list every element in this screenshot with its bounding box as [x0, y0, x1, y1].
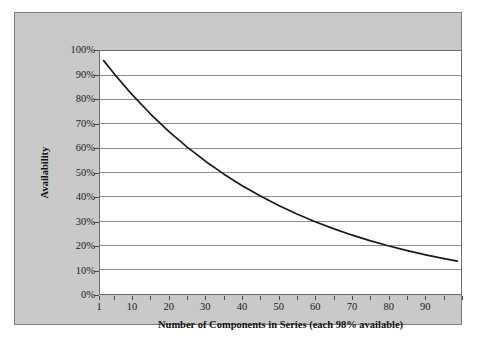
- x-axis-tick-mark: [279, 296, 280, 300]
- x-axis-tick-mark: [114, 296, 115, 300]
- availability-curve: [100, 51, 461, 294]
- chart-panel-frame: 0%10%20%30%40%50%60%70%80%90%100% 110203…: [14, 12, 462, 325]
- x-axis-tick-mark: [150, 296, 151, 300]
- x-axis-tick-mark: [187, 296, 188, 300]
- y-axis-tick-label: 0%: [81, 290, 95, 301]
- x-axis-tick-label: 10: [127, 302, 138, 313]
- x-axis-tick-mark: [132, 296, 133, 300]
- x-axis-tick-label: 90: [420, 302, 431, 313]
- y-axis-tick-label: 90%: [76, 69, 95, 80]
- y-axis-tick-label: 20%: [76, 241, 95, 252]
- y-axis-tick-label: 100%: [71, 45, 96, 56]
- x-axis-tick-mark: [444, 296, 445, 300]
- x-axis-tick-label: 50: [273, 302, 284, 313]
- y-axis-tick-label: 80%: [76, 94, 95, 105]
- y-axis-tick-label: 10%: [76, 265, 95, 276]
- x-axis-tick-mark: [224, 296, 225, 300]
- x-axis-tick-label: 30: [200, 302, 211, 313]
- x-axis-tick-mark: [205, 296, 206, 300]
- x-axis-tick-label: 20: [163, 302, 174, 313]
- x-axis-tick-mark: [352, 296, 353, 300]
- x-axis-tick-label: 60: [310, 302, 321, 313]
- x-axis-tick-mark: [169, 296, 170, 300]
- y-axis-tick-labels: 0%10%20%30%40%50%60%70%80%90%100%: [55, 50, 95, 295]
- y-axis-tick-label: 50%: [76, 167, 95, 178]
- x-axis-tick-label: 70: [347, 302, 358, 313]
- x-axis-tick-mark: [389, 296, 390, 300]
- x-axis-title: Number of Components in Series (each 98%…: [99, 319, 462, 330]
- x-axis-tick-mark: [260, 296, 261, 300]
- plot-area: [99, 50, 462, 295]
- x-axis-tick-mark: [315, 296, 316, 300]
- x-axis-tick-mark: [407, 296, 408, 300]
- y-axis-title: Availability: [39, 50, 53, 295]
- y-axis-tick-label: 60%: [76, 143, 95, 154]
- y-axis-tick-label: 30%: [76, 216, 95, 227]
- x-axis-tick-labels: 1102030405060708090: [99, 302, 462, 318]
- x-axis-tick-mark: [242, 296, 243, 300]
- x-axis-tick-mark: [334, 296, 335, 300]
- x-axis-tick-label: 40: [237, 302, 248, 313]
- x-axis-tick-mark: [370, 296, 371, 300]
- x-axis-tick-mark: [462, 296, 463, 300]
- x-axis-tick-mark: [99, 296, 100, 300]
- x-axis-tick-label: 1: [96, 302, 101, 313]
- x-axis-tick-mark: [425, 296, 426, 300]
- y-axis-tick-label: 70%: [76, 118, 95, 129]
- y-axis-tick-label: 40%: [76, 192, 95, 203]
- x-axis-tick-label: 80: [383, 302, 394, 313]
- chart-screenshot: 0%10%20%30%40%50%60%70%80%90%100% 110203…: [0, 0, 479, 338]
- x-axis-tick-mark: [297, 296, 298, 300]
